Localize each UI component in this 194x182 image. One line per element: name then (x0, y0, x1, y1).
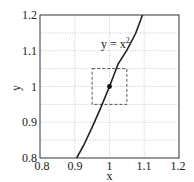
svg-text:1.2: 1.2 (171, 159, 186, 173)
svg-text:1: 1 (31, 80, 37, 94)
svg-text:0.9: 0.9 (68, 159, 83, 173)
curve-label: y = x2 (101, 36, 130, 51)
y-tick-labels: 0.8 0.9 1 1.1 1.2 (22, 8, 37, 165)
svg-text:0.8: 0.8 (35, 159, 50, 173)
svg-text:1.2: 1.2 (22, 8, 37, 22)
x-axis-label: x (107, 169, 113, 182)
chart: y = x2 0.8 0.9 1 1.1 1.2 0.8 0.9 1 1.1 1… (0, 0, 194, 182)
svg-text:1.1: 1.1 (22, 44, 37, 58)
svg-text:1.1: 1.1 (137, 159, 152, 173)
y-axis-label: y (9, 85, 23, 91)
svg-text:0.9: 0.9 (22, 115, 37, 129)
point-marker (107, 84, 112, 89)
